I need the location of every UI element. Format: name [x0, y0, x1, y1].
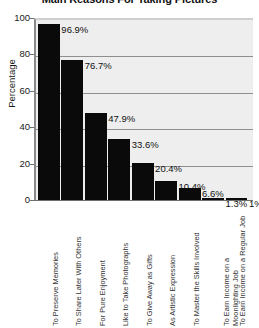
x-axis-category-label: To Share Later With Others [75, 236, 84, 326]
bar [61, 60, 83, 200]
y-axis-ticks: 020406080100 [0, 0, 30, 328]
bar-value-label: 1.3% [225, 199, 247, 209]
bar [108, 139, 130, 200]
chart-title: Main Reasons For Taking Pictures [0, 0, 259, 5]
bar-value-label: 33.6% [132, 140, 159, 150]
bar-value-label: 76.7% [85, 61, 112, 71]
x-axis-category-label: To Earn Income on a Regular Job [239, 216, 248, 326]
y-tick-label: 20 [8, 159, 30, 169]
x-axis-category-label: To Master the Skills Involved [193, 232, 202, 326]
x-axis-category-label: To Preserve Memories [52, 252, 61, 326]
x-axis-category-label: For Pure Enjoyment [99, 260, 108, 326]
y-tick-label: 40 [8, 122, 30, 132]
y-tick-label: 60 [8, 86, 30, 96]
bar [155, 181, 177, 200]
bar [132, 163, 154, 200]
y-tick-label: 0 [8, 195, 30, 205]
y-tick-label: 80 [8, 49, 30, 59]
bar-value-label: 47.9% [108, 114, 135, 124]
x-axis-line [34, 200, 253, 201]
x-axis-category-label: As Artistic Expression [169, 255, 178, 326]
bar [85, 113, 107, 200]
bar [202, 198, 224, 200]
bar [226, 198, 248, 200]
bar [179, 188, 201, 200]
x-axis-category-label: Like to Take Photographs [122, 243, 131, 326]
bar-chart: Main Reasons For Taking Pictures Percent… [0, 0, 259, 328]
gridline [36, 56, 253, 57]
x-axis-labels: To Preserve MemoriesTo Share Later With … [34, 202, 253, 328]
bar-value-label: 96.9% [61, 25, 88, 35]
bar-value-label: 1% [249, 199, 259, 209]
bar-value-label: 20.4% [155, 164, 182, 174]
bar [38, 24, 60, 200]
x-axis-category-label: To Give Away as Gifts [146, 254, 155, 326]
y-tick-label: 100 [8, 13, 30, 23]
